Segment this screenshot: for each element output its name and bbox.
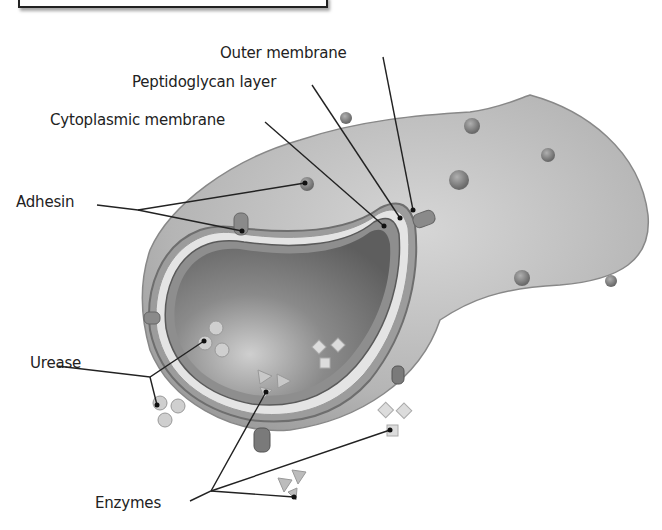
adhesin-bump: [449, 170, 469, 190]
membrane-protein: [144, 312, 160, 324]
membrane-protein: [392, 366, 404, 384]
adhesin-bump: [541, 148, 555, 162]
adhesin-bump: [514, 270, 530, 286]
adhesin-bump: [340, 112, 352, 124]
label-outer-membrane: Outer membrane: [220, 44, 347, 62]
enzyme-square: [320, 358, 330, 368]
urease-molecule: [158, 413, 172, 427]
label-cytoplasmic-membrane: Cytoplasmic membrane: [50, 111, 225, 129]
urease-molecule: [209, 321, 223, 335]
adhesin-bump: [605, 275, 617, 287]
adhesin-bump: [464, 118, 480, 134]
enzyme-triangle: [278, 478, 292, 492]
enzyme-square: [378, 402, 394, 418]
label-peptidoglycan-layer: Peptidoglycan layer: [132, 73, 276, 91]
label-adhesin: Adhesin: [16, 193, 74, 211]
label-urease: Urease: [30, 354, 81, 372]
label-enzymes: Enzymes: [95, 494, 161, 512]
urease-molecule: [171, 399, 185, 413]
cell-illustration: [0, 0, 662, 530]
urease-molecule: [215, 343, 229, 357]
membrane-protein: [254, 428, 270, 452]
enzyme-square: [396, 403, 412, 419]
enzyme-triangle: [292, 470, 306, 484]
